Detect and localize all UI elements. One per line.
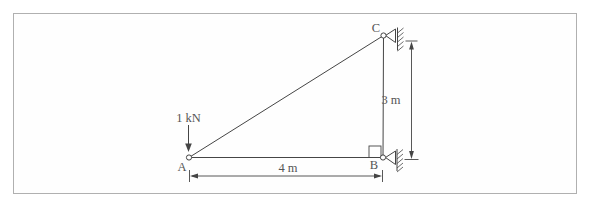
figure-frame: 1 kN 4 m 3 m A B C [0,0,591,206]
joint-label-a: A [177,160,186,174]
joint-label-b: B [370,158,378,172]
load-label: 1 kN [176,111,201,125]
dimension-label-vertical: 3 m [381,93,400,107]
truss-diagram: 1 kN 4 m 3 m A B C [0,0,591,206]
joint-label-c: C [372,21,380,35]
joint-b [380,155,385,160]
dimension-label-horizontal: 4 m [278,161,297,175]
joint-a [186,155,191,160]
joint-c [381,33,386,38]
